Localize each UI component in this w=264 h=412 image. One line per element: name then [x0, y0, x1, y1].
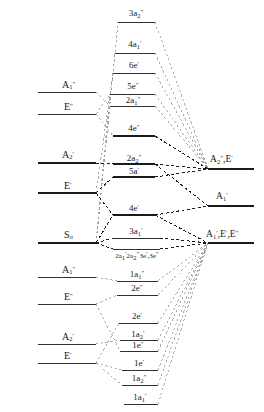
level-label-4e: 4e′ — [129, 204, 139, 213]
corr-mo-1a1p-to-right-triple — [158, 243, 208, 404]
corr-left-a1dp-upper-to-mo-2a1dp — [96, 92, 110, 106]
level-label-5e: 5e″ — [127, 82, 138, 91]
corr-mo-6ep-to-right-a2dp-ep — [155, 73, 208, 169]
corr-left-sigma-to-mo-4ep — [96, 215, 113, 243]
corr-left-a2p-to-mo-2a2dp — [96, 163, 113, 164]
level-label-1a2: 1a2″ — [132, 374, 147, 384]
level-label-A1: A1″ — [62, 80, 75, 91]
level-label-1a1: 1a1′ — [133, 393, 146, 403]
level-label-3a1: 3a1′ — [129, 227, 142, 237]
level-label-A1EE: A1′,E′,E″ — [206, 230, 238, 240]
level-label-A2: A2′ — [62, 332, 74, 343]
corr-left-ep-to-mo-4ep — [96, 193, 113, 215]
corr-left-ep-lower-to-mo-1a2dp — [96, 363, 122, 385]
level-label-2a1: 2a1″ — [126, 96, 141, 106]
level-label-3a2: 3a2″ — [129, 9, 144, 19]
correlation-lines-faint — [96, 22, 208, 404]
level-label-2a12a23e3e: 2a1′2a2″3e′,3e″ — [115, 251, 159, 261]
level-label-E: E″ — [64, 102, 73, 112]
level-label-A1: A1″ — [62, 265, 75, 276]
corr-mo-2edp-to-right-triple — [158, 243, 208, 295]
level-label-1e: 1e″ — [132, 341, 143, 350]
level-label-4e: 4e″ — [128, 124, 139, 133]
corr-left-ep-to-mo-6ep — [96, 73, 113, 193]
level-label-4a1: 4a1′ — [128, 40, 141, 50]
corr-mo-5ap-to-right-a2dp-ep — [155, 169, 208, 177]
corr-left-sigma-to-mo-3a1p — [96, 238, 113, 243]
level-label-2e: 2e′ — [132, 312, 142, 321]
corr-left-ep-to-mo-5ap — [96, 177, 113, 193]
level-label-1e: 1e′ — [134, 359, 144, 368]
correlation-lines-bold — [96, 136, 208, 249]
corr-left-sigma-to-mo-combo — [96, 243, 113, 249]
level-label-A1: A1′ — [216, 192, 228, 202]
level-label-1a2: 1a2′ — [131, 330, 144, 340]
level-label-A2: A2′ — [62, 150, 74, 161]
corr-mo-2a1dp-to-right-a2dp-ep — [155, 106, 208, 169]
level-label-E: E′ — [64, 351, 72, 361]
corr-mo-5edp-to-right-a2dp-ep — [155, 94, 208, 169]
corr-mo-4a1p-to-right-a2dp-ep — [155, 53, 208, 169]
level-label-5a: 5a′ — [129, 167, 139, 176]
corr-mo-2ep-to-right-triple — [158, 243, 208, 323]
corr-left-a1dp-lower-to-mo-1a1dp — [96, 277, 117, 281]
level-label-2e: 2e″ — [131, 284, 142, 293]
corr-mo-1edp-to-right-triple — [158, 243, 208, 351]
corr-mo-4ep-to-right-a1p — [155, 206, 208, 215]
level-label-2a2: 2a2″ — [127, 154, 142, 164]
corr-mo-4ep-to-right-triple — [155, 215, 208, 243]
level-label-E: E″ — [64, 292, 73, 302]
level-label-1a1: 1a1″ — [130, 270, 145, 280]
corr-left-edp-lower-to-mo-2edp — [96, 295, 117, 304]
corr-left-edp-upper-to-mo-4edp — [96, 114, 113, 136]
corr-mo-1ep-to-right-triple — [158, 243, 208, 370]
corr-left-edp-lower-to-mo-1edp — [96, 304, 120, 351]
level-label-E: E′ — [64, 181, 72, 191]
level-label-6e: 6e′ — [129, 61, 139, 70]
corr-mo-3a2dp-to-right-a2dp-ep — [155, 22, 208, 169]
corr-mo-2a2dp-to-right-a2dp-ep — [155, 164, 208, 169]
level-label-Ssigma: Sσ — [64, 230, 73, 241]
corr-mo-1a2p-to-right-triple — [158, 243, 208, 340]
corr-mo-1a2dp-to-right-triple — [158, 243, 208, 385]
level-label-A2E: A2″,E′ — [210, 155, 233, 165]
mo-correlation-diagram: A1″E″A2′E′SσA1″E″A2′E′3a2″4a1′6e′5e″2a1″… — [0, 0, 264, 412]
corr-mo-4edp-to-right-a2dp-ep — [155, 136, 208, 169]
corr-left-sigma-to-mo-5edp — [96, 94, 110, 243]
